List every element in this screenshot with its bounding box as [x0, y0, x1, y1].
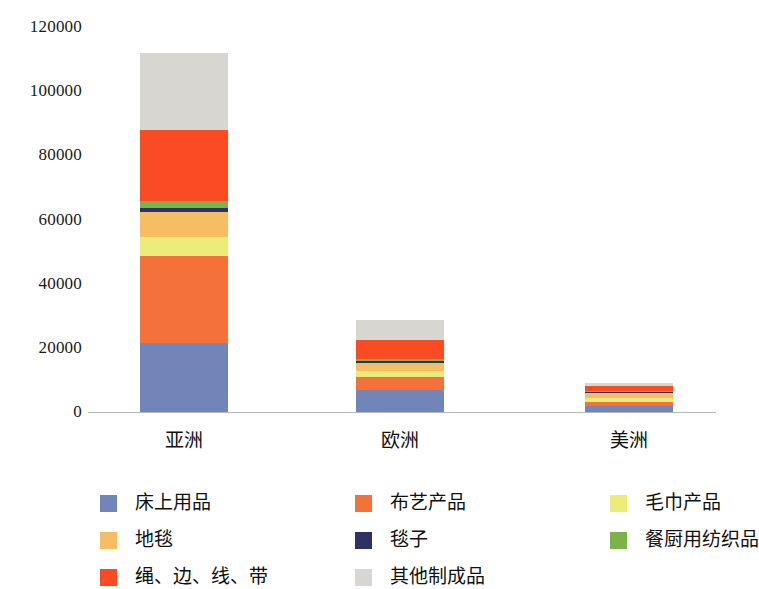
bar-segment[interactable]	[356, 359, 444, 361]
legend-item-label: 毯子	[390, 529, 428, 551]
bar-segment[interactable]	[356, 390, 444, 412]
legend-item[interactable]: 绳、边、线、带	[100, 566, 268, 588]
legend-item-label: 其他制成品	[390, 566, 485, 588]
bar-segment[interactable]	[140, 256, 228, 343]
y-axis-tick-label: 0	[0, 403, 82, 420]
legend-item[interactable]: 毛巾产品	[610, 492, 721, 514]
bar-segment[interactable]	[140, 237, 228, 257]
y-axis-tick-label: 100000	[0, 82, 82, 99]
bar-segment[interactable]	[585, 386, 673, 391]
bar-segment[interactable]	[585, 398, 673, 402]
stacked-bar[interactable]	[356, 27, 444, 412]
y-axis-tick-labels: 120000100000800006000040000200000	[0, 0, 82, 589]
legend-item[interactable]: 布艺产品	[355, 492, 466, 514]
legend-color-swatch-icon	[100, 495, 117, 512]
bar-segment[interactable]	[356, 377, 444, 390]
legend-item[interactable]: 地毯	[100, 529, 173, 551]
legend-color-swatch-icon	[100, 532, 117, 549]
bar-segment[interactable]	[356, 340, 444, 359]
plot-area	[88, 27, 716, 412]
x-axis-category-label: 亚洲	[124, 430, 244, 452]
x-axis-category-label: 美洲	[569, 430, 689, 452]
legend-color-swatch-icon	[610, 495, 627, 512]
legend-color-swatch-icon	[610, 532, 627, 549]
bar-segment[interactable]	[585, 392, 673, 393]
legend-color-swatch-icon	[355, 495, 372, 512]
bar-segment[interactable]	[585, 406, 673, 412]
legend-item-label: 床上用品	[135, 492, 211, 514]
bar-segment[interactable]	[585, 402, 673, 406]
y-axis-tick-label: 40000	[0, 275, 82, 292]
legend-item[interactable]: 毯子	[355, 529, 428, 551]
bar-segment[interactable]	[585, 383, 673, 386]
bar-segment[interactable]	[356, 320, 444, 340]
y-axis-tick-label: 60000	[0, 211, 82, 228]
stacked-bar[interactable]	[585, 27, 673, 412]
y-axis-tick-label: 20000	[0, 339, 82, 356]
bar-segment[interactable]	[140, 130, 228, 201]
legend-color-swatch-icon	[100, 569, 117, 586]
legend-color-swatch-icon	[355, 532, 372, 549]
legend-item-label: 餐厨用纺织品	[645, 529, 759, 551]
legend-item[interactable]: 床上用品	[100, 492, 211, 514]
bar-group	[140, 27, 228, 412]
bar-group	[356, 27, 444, 412]
y-axis-tick-label: 80000	[0, 146, 82, 163]
legend-item-label: 布艺产品	[390, 492, 466, 514]
bar-segment[interactable]	[585, 393, 673, 398]
bar-segment[interactable]	[585, 391, 673, 392]
bar-segment[interactable]	[356, 361, 444, 363]
bar-segment[interactable]	[356, 363, 444, 371]
legend-item[interactable]: 其他制成品	[355, 566, 485, 588]
stacked-bar[interactable]	[140, 27, 228, 412]
legend-item[interactable]: 餐厨用纺织品	[610, 529, 759, 551]
bar-segment[interactable]	[140, 53, 228, 130]
x-axis-category-label: 欧洲	[340, 430, 460, 452]
y-axis-tick-label: 120000	[0, 18, 82, 35]
bar-segment[interactable]	[140, 212, 228, 236]
legend-color-swatch-icon	[355, 569, 372, 586]
bar-segment[interactable]	[140, 343, 228, 412]
bar-group	[585, 27, 673, 412]
legend-item-label: 地毯	[135, 529, 173, 551]
legend-item-label: 绳、边、线、带	[135, 566, 268, 588]
legend-item-label: 毛巾产品	[645, 492, 721, 514]
chart-legend: 床上用品布艺产品毛巾产品地毯毯子餐厨用纺织品绳、边、线、带其他制成品	[100, 492, 700, 582]
bar-segment[interactable]	[140, 208, 228, 212]
x-axis-baseline	[88, 412, 716, 413]
bar-segment[interactable]	[356, 371, 444, 377]
bar-segment[interactable]	[140, 201, 228, 208]
